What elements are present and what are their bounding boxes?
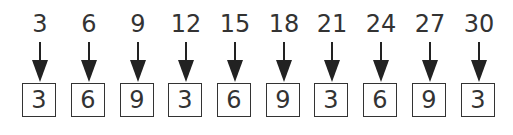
arrow-head-icon	[32, 60, 48, 82]
arrow-head-icon	[130, 60, 146, 82]
arrow-head-icon	[422, 60, 438, 82]
arrow-head-icon	[276, 60, 292, 82]
arrow-head-icon	[324, 60, 340, 82]
output-box: 3	[314, 83, 348, 117]
column: 30 3	[455, 0, 503, 135]
arrow-head-icon	[471, 60, 487, 82]
arrow-head-icon	[373, 60, 389, 82]
output-box: 9	[120, 83, 154, 117]
output-box: 9	[412, 83, 446, 117]
input-number: 30	[445, 10, 513, 38]
arrow-head-icon	[227, 60, 243, 82]
output-box: 3	[168, 83, 202, 117]
output-box: 6	[363, 83, 397, 117]
arrow-head-icon	[178, 60, 194, 82]
arrow-head-icon	[81, 60, 97, 82]
output-box: 9	[266, 83, 300, 117]
output-box: 6	[71, 83, 105, 117]
output-box: 3	[461, 83, 495, 117]
output-box: 6	[217, 83, 251, 117]
output-box: 3	[22, 83, 56, 117]
